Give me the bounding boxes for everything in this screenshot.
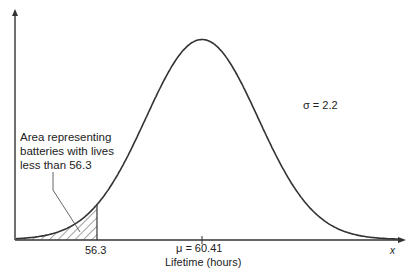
area-label-line-3: less than 56.3: [20, 158, 114, 172]
shaded-area-annotation: Area representing batteries with lives l…: [20, 130, 114, 172]
shaded-left-tail: [16, 205, 97, 240]
sigma-label: σ = 2.2: [303, 99, 338, 112]
area-label-line-1: Area representing: [20, 130, 114, 144]
x-axis-arrow-icon: [398, 237, 406, 243]
y-axis-arrow-icon: [12, 9, 18, 16]
cutoff-tick-label: 56.3: [85, 244, 106, 257]
x-axis-title: Lifetime (hours): [165, 256, 241, 269]
x-variable-label: x: [390, 244, 395, 257]
mean-label: μ = 60.41: [176, 242, 222, 255]
area-label-line-2: batteries with lives: [20, 144, 114, 158]
